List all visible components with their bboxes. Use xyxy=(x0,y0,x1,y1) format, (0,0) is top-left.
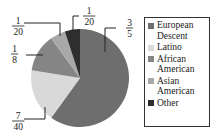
legend-label: European Descent xyxy=(157,20,209,41)
label-latino: 740 xyxy=(12,111,24,132)
legend-item-african-american: African American xyxy=(148,54,209,75)
legend-item-european-descent: European Descent xyxy=(148,20,209,41)
legend-item-other: Other xyxy=(148,98,209,109)
label-asian-american: 120 xyxy=(12,16,24,37)
legend: European DescentLatinoAfrican AmericanAs… xyxy=(144,17,210,127)
svg-text:20: 20 xyxy=(84,17,94,27)
leader-line xyxy=(24,107,45,119)
legend-label: Other xyxy=(157,98,209,109)
label-other: 120 xyxy=(83,6,95,27)
svg-text:40: 40 xyxy=(13,122,23,132)
svg-text:20: 20 xyxy=(13,27,23,37)
svg-text:3: 3 xyxy=(127,18,132,28)
legend-item-asian-american: Asian American xyxy=(148,76,209,97)
leader-line xyxy=(24,23,60,36)
legend-swatch xyxy=(148,56,154,62)
svg-text:1: 1 xyxy=(87,6,92,16)
legend-label: Latino xyxy=(157,42,209,53)
svg-text:1: 1 xyxy=(16,16,21,26)
leader-line xyxy=(73,16,79,30)
svg-text:8: 8 xyxy=(12,55,17,65)
svg-text:5: 5 xyxy=(127,29,132,39)
label-african-american: 18 xyxy=(11,44,18,65)
legend-swatch xyxy=(148,78,154,84)
legend-swatch xyxy=(148,23,154,29)
legend-swatch xyxy=(148,45,154,51)
svg-text:7: 7 xyxy=(16,111,21,121)
svg-text:1: 1 xyxy=(12,44,17,54)
pie-slices xyxy=(31,29,129,127)
legend-label: African American xyxy=(157,54,209,75)
label-european-descent: 35 xyxy=(126,18,133,39)
legend-label: Asian American xyxy=(157,76,209,97)
legend-swatch xyxy=(148,100,154,106)
legend-item-latino: Latino xyxy=(148,42,209,53)
